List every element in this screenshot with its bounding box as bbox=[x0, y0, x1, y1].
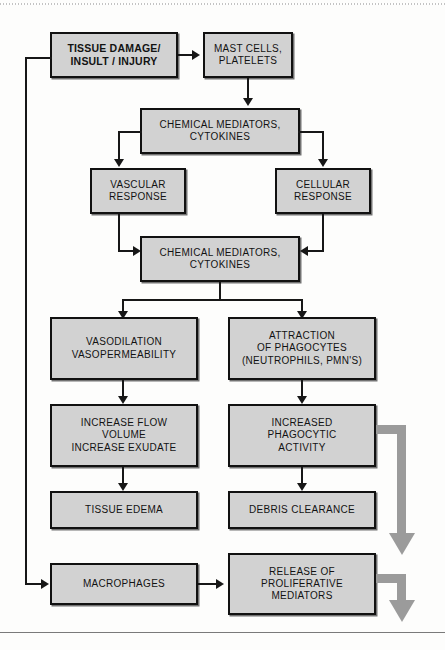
node-chemical-mediators-1: CHEMICAL MEDIATORS, CYTOKINES bbox=[140, 108, 300, 154]
node-increase-flow: INCREASE FLOW VOLUME INCREASE EXUDATE bbox=[50, 404, 198, 467]
connector-vascular-down bbox=[118, 214, 120, 251]
connector-cellular-down bbox=[322, 214, 324, 251]
arrowhead-attraction-to-phagocytic bbox=[297, 396, 307, 404]
arrowhead-cellular-to-chem2 bbox=[300, 246, 308, 256]
arrowhead-tissue-to-mast bbox=[192, 50, 200, 60]
node-mast-cells: MAST CELLS, PLATELETS bbox=[203, 32, 293, 78]
node-increase-flow-label: INCREASE FLOW VOLUME INCREASE EXUDATE bbox=[71, 417, 176, 454]
gray-arrow-1-vertical-segment bbox=[397, 425, 406, 534]
node-macrophages: MACROPHAGES bbox=[50, 563, 198, 605]
arrowhead-chem1-to-vascular bbox=[114, 159, 124, 167]
node-tissue-damage-label: TISSUE DAMAGE/ INSULT / INJURY bbox=[67, 42, 160, 68]
node-increased-phagocytic-label: INCREASED PHAGOCYTIC ACTIVITY bbox=[267, 417, 336, 454]
node-debris-clearance-label: DEBRIS CLEARANCE bbox=[249, 504, 355, 516]
connector-feedback-vertical bbox=[25, 57, 27, 584]
arrowhead-vasodilation-to-flow bbox=[118, 396, 128, 404]
connector-feedback-top bbox=[25, 57, 52, 59]
node-chemical-mediators-2-label: CHEMICAL MEDIATORS, CYTOKINES bbox=[159, 247, 280, 271]
node-attraction-phagocytes-label: ATTRACTION OF PHAGOCYTES (NEUTROPHILS, P… bbox=[242, 330, 362, 367]
node-chemical-mediators-2: CHEMICAL MEDIATORS, CYTOKINES bbox=[140, 236, 300, 282]
node-attraction-phagocytes: ATTRACTION OF PHAGOCYTES (NEUTROPHILS, P… bbox=[228, 317, 376, 380]
connector-chem1-right-h bbox=[298, 131, 324, 133]
connector-chem1-right-v bbox=[322, 131, 324, 161]
node-debris-clearance: DEBRIS CLEARANCE bbox=[228, 491, 376, 529]
node-vascular-response-label: VASCULAR RESPONSE bbox=[109, 179, 167, 203]
arrowhead-feedback-to-macrophages bbox=[41, 579, 49, 589]
node-increased-phagocytic: INCREASED PHAGOCYTIC ACTIVITY bbox=[228, 404, 376, 467]
arrowhead-chem1-to-cellular bbox=[318, 159, 328, 167]
node-macrophages-label: MACROPHAGES bbox=[83, 578, 165, 590]
node-cellular-response: CELLULAR RESPONSE bbox=[275, 168, 371, 214]
connector-mast-to-chem1 bbox=[247, 78, 249, 100]
node-cellular-response-label: CELLULAR RESPONSE bbox=[294, 179, 352, 203]
node-chemical-mediators-1-label: CHEMICAL MEDIATORS, CYTOKINES bbox=[159, 119, 280, 143]
arrowhead-mast-to-chem1 bbox=[243, 98, 253, 106]
scan-artifact-top-edge bbox=[0, 3, 445, 5]
node-vascular-response: VASCULAR RESPONSE bbox=[90, 168, 186, 214]
node-vasodilation: VASODILATION VASOPERMEABILITY bbox=[50, 317, 198, 380]
arrowhead-phagocytic-to-debris bbox=[297, 483, 307, 491]
node-release-proliferative-mediators-label: RELEASE OF PROLIFERATIVE MEDIATORS bbox=[261, 566, 343, 603]
node-vasodilation-label: VASODILATION VASOPERMEABILITY bbox=[72, 336, 177, 360]
arrowhead-flow-to-edema bbox=[118, 483, 128, 491]
node-release-proliferative-mediators: RELEASE OF PROLIFERATIVE MEDIATORS bbox=[228, 553, 376, 615]
node-mast-cells-label: MAST CELLS, PLATELETS bbox=[214, 43, 282, 67]
connector-chem2-stem bbox=[219, 282, 221, 300]
page-bottom-rule bbox=[0, 632, 445, 633]
connector-chem1-left-h bbox=[118, 131, 142, 133]
gray-arrow-1-arrowhead-icon bbox=[389, 533, 415, 555]
connector-chem1-left-v bbox=[118, 131, 120, 161]
flowchart-page: TISSUE DAMAGE/ INSULT / INJURY MAST CELL… bbox=[0, 0, 445, 650]
arrowhead-macrophages-to-release bbox=[216, 579, 224, 589]
gray-arrow-2-vertical-segment bbox=[397, 574, 406, 601]
node-tissue-damage: TISSUE DAMAGE/ INSULT / INJURY bbox=[50, 32, 178, 78]
node-tissue-edema-label: TISSUE EDEMA bbox=[85, 504, 163, 516]
gray-arrow-2-arrowhead-icon bbox=[389, 600, 415, 622]
connector-chem2-split-bar bbox=[122, 299, 302, 301]
node-tissue-edema: TISSUE EDEMA bbox=[50, 491, 198, 529]
